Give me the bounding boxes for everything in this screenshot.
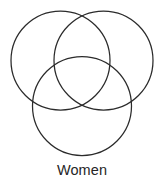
canvas-background (0, 0, 164, 184)
figure-caption: Women (0, 162, 164, 179)
venn-diagram-graphic (0, 0, 164, 184)
venn-diagram-figure: Women (0, 0, 164, 184)
